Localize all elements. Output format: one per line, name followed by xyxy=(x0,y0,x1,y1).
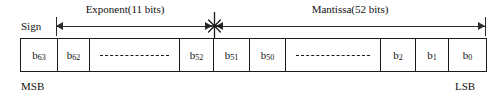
bit-cell-ellipsis xyxy=(286,39,381,71)
bit-cell-index: 1 xyxy=(433,54,437,62)
mantissa-span-rail xyxy=(216,26,486,27)
bit-cell-index: 52 xyxy=(195,54,203,62)
bit-cell-b50: b50 xyxy=(250,39,286,71)
bit-cell-index: 2 xyxy=(399,54,403,62)
exponent-span-left-arrowhead-icon xyxy=(56,22,63,30)
bit-cell-index: 51 xyxy=(230,54,238,62)
exponent-span-rail xyxy=(56,26,212,27)
bit-cell-index: 62 xyxy=(72,54,80,62)
bit-cell-b51: b51 xyxy=(214,39,250,71)
bit-field-row: b63b62b52b51b50b2b1b0 xyxy=(20,38,487,72)
mantissa-span-right-endcap xyxy=(485,17,486,36)
mantissa-span-right-arrowhead-icon xyxy=(478,22,485,30)
mantissa-span-label: Mantissa(52 bits) xyxy=(289,3,411,15)
asterisk-junction-marker-icon xyxy=(206,12,223,40)
bit-cell-b2: b2 xyxy=(381,39,416,71)
bit-cell-b52: b52 xyxy=(180,39,214,71)
bit-cell-index: 50 xyxy=(266,54,274,62)
msb-label: MSB xyxy=(21,80,44,92)
bit-cell-b1: b1 xyxy=(416,39,449,71)
ieee754-bit-layout-diagram: Exponent(11 bits) Mantissa(52 bits) Sign… xyxy=(0,0,504,99)
bit-cell-b0: b0 xyxy=(449,39,486,71)
lsb-label: LSB xyxy=(455,80,475,92)
dashed-continuation-line xyxy=(100,55,169,56)
bit-cell-index: 63 xyxy=(38,54,46,62)
bit-cell-b63: b63 xyxy=(21,39,58,71)
exponent-span-label: Exponent(11 bits) xyxy=(69,3,181,15)
bit-cell-b62: b62 xyxy=(58,39,90,71)
bit-cell-ellipsis xyxy=(90,39,180,71)
sign-label: Sign xyxy=(21,20,41,32)
dashed-continuation-line xyxy=(296,55,369,56)
bit-cell-index: 0 xyxy=(468,54,472,62)
